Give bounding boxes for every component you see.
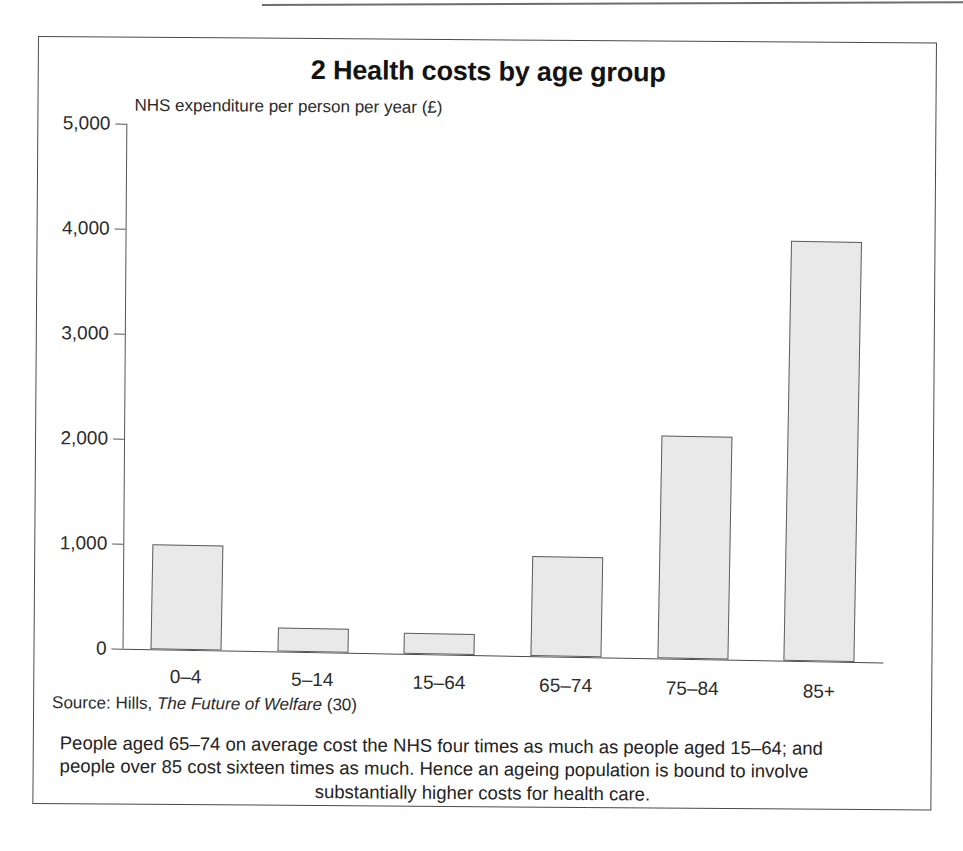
y-axis-ticks: 01,0002,0003,0004,0005,000 [39,37,938,44]
y-axis-tick-label: 5,000 [38,112,110,135]
y-axis-tick [115,229,126,230]
figure-caption: People aged 65–74 on average cost the NH… [59,731,905,807]
figure-title: 2 Health costs by age group [39,53,938,91]
y-axis-tick [112,649,123,650]
bar-75–84 [657,436,732,660]
y-axis-tick [113,439,124,440]
y-axis-tick-label: 3,000 [37,322,109,345]
x-axis-tick-label: 0–4 [170,666,202,688]
y-axis-tick [114,334,125,335]
bar-85+ [784,241,863,662]
page-edge-line [262,1,963,6]
y-axis-tick [112,544,123,545]
bar-0–4 [150,544,223,650]
x-axis-tick-label: 85+ [803,680,835,702]
bar-65–74 [530,556,603,657]
y-axis-tick-label: 4,000 [38,217,110,240]
x-axis-tick-label: 65–74 [539,674,592,696]
y-axis-tick-label: 1,000 [35,532,107,555]
x-axis-tick-label: 5–14 [291,669,333,691]
x-axis-tick-label: 75–84 [666,677,719,699]
x-axis-tick-label: 15–64 [412,672,465,694]
bar-series [123,124,892,663]
figure-box: 2 Health costs by age group NHS expendit… [32,36,937,811]
y-axis-tick [115,124,126,125]
source-prefix: Source: Hills, [52,693,152,713]
bar-15–64 [404,633,475,655]
bar-5–14 [277,627,348,652]
y-axis-tick-label: 2,000 [36,427,108,450]
source-title: The Future of Welfare [157,694,322,714]
x-axis-labels: 0–45–1415–6465–7475–8485+ [39,37,938,44]
y-axis-tick-label: 0 [34,637,106,660]
figure-inner: 2 Health costs by age group NHS expendit… [33,37,938,812]
source-line: Source: Hills, The Future of Welfare (30… [52,693,357,715]
y-axis-title: NHS expenditure per person per year (£) [134,96,442,118]
source-suffix: (30) [327,695,357,714]
